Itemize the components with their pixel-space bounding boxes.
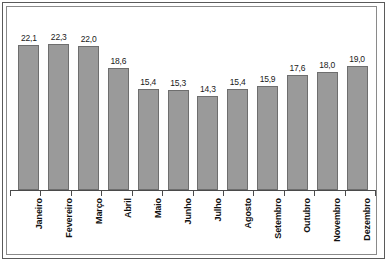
bar-group: 22,0 <box>74 20 104 190</box>
bar-group: 18,6 <box>103 20 133 190</box>
x-axis-tick <box>223 190 224 196</box>
bar-value-label: 22,3 <box>51 33 67 42</box>
bar-group: 22,3 <box>44 20 74 190</box>
x-tick-label-slot: Outubro <box>282 198 312 253</box>
x-axis-tick <box>284 190 285 196</box>
bar <box>227 89 248 190</box>
x-axis-tick-labels: JaneiroFevereiroMarçoAbrilMaioJunhoJulho… <box>14 198 372 253</box>
x-tick-label-slot: Janeiro <box>14 198 44 253</box>
x-tick-label: Janeiro <box>33 198 43 229</box>
x-tick-label-slot: Novembro <box>312 198 342 253</box>
x-axis-tick <box>40 190 41 196</box>
x-tick-label-slot: Março <box>74 198 104 253</box>
x-axis-tick <box>253 190 254 196</box>
x-tick-label-slot: Junho <box>163 198 193 253</box>
bar-group: 22,1 <box>14 20 44 190</box>
bar <box>197 96 218 190</box>
plot-area: 22,122,322,018,615,415,314,315,415,917,6… <box>14 20 372 190</box>
bar-group: 19,0 <box>342 20 372 190</box>
bar <box>347 66 368 190</box>
bar-series: 22,122,322,018,615,415,314,315,415,917,6… <box>14 20 372 190</box>
x-tick-label-slot: Abril <box>103 198 133 253</box>
bar <box>78 46 99 190</box>
x-tick-label: Julho <box>212 198 222 222</box>
bar-group: 15,9 <box>253 20 283 190</box>
bar-value-label: 22,0 <box>81 35 97 44</box>
bar-group: 15,4 <box>133 20 163 190</box>
bar <box>108 68 129 190</box>
bar-value-label: 15,4 <box>140 78 156 87</box>
bar-value-label: 18,0 <box>319 61 335 70</box>
x-axis-tick <box>71 190 72 196</box>
x-tick-label-slot: Dezembro <box>342 198 372 253</box>
x-axis-tick <box>162 190 163 196</box>
bar-group: 18,0 <box>312 20 342 190</box>
chart-figure: 22,122,322,018,615,415,314,315,415,917,6… <box>0 0 387 261</box>
bar <box>168 90 189 190</box>
bar-group: 17,6 <box>282 20 312 190</box>
x-tick-label: Maio <box>153 198 163 218</box>
x-tick-label: Setembro <box>272 198 282 239</box>
x-axis-tick <box>101 190 102 196</box>
x-axis-tick <box>345 190 346 196</box>
bar-group: 14,3 <box>193 20 223 190</box>
x-axis-tick <box>375 190 376 196</box>
bar-value-label: 15,9 <box>260 75 276 84</box>
x-tick-label-slot: Setembro <box>253 198 283 253</box>
bar-value-label: 14,3 <box>200 85 216 94</box>
x-axis-tick <box>10 190 11 196</box>
bar-group: 15,4 <box>223 20 253 190</box>
bar-value-label: 18,6 <box>111 57 127 66</box>
x-tick-label-slot: Agosto <box>223 198 253 253</box>
bar-value-label: 15,4 <box>230 78 246 87</box>
bar <box>257 86 278 190</box>
x-tick-label: Março <box>93 198 103 224</box>
x-tick-label: Dezembro <box>362 198 372 241</box>
x-tick-label-slot: Fevereiro <box>44 198 74 253</box>
bar-value-label: 22,1 <box>21 34 37 43</box>
bar-value-label: 15,3 <box>170 79 186 88</box>
x-tick-label: Junho <box>183 198 193 225</box>
bar <box>48 44 69 190</box>
x-axis-tick <box>132 190 133 196</box>
x-tick-label: Novembro <box>332 198 342 242</box>
x-axis-tick <box>314 190 315 196</box>
bar <box>18 45 39 190</box>
bar-group: 15,3 <box>163 20 193 190</box>
x-tick-label: Abril <box>123 198 133 218</box>
x-tick-label: Outubro <box>302 198 312 233</box>
x-tick-label: Agosto <box>242 198 252 228</box>
x-axis-tick <box>193 190 194 196</box>
bar <box>287 75 308 190</box>
bar <box>138 89 159 190</box>
bar-value-label: 17,6 <box>289 64 305 73</box>
x-tick-label-slot: Julho <box>193 198 223 253</box>
x-tick-label: Fevereiro <box>63 198 73 238</box>
bar <box>317 72 338 190</box>
bar-value-label: 19,0 <box>349 55 365 64</box>
x-tick-label-slot: Maio <box>133 198 163 253</box>
